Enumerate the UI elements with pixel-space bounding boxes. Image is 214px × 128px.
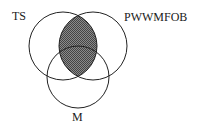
pwwmfob-label: PWWMFOB xyxy=(124,10,187,24)
ts-label: TS xyxy=(12,9,26,23)
venn-diagram: TS PWWMFOB M xyxy=(0,0,214,128)
m-label: M xyxy=(72,110,83,124)
